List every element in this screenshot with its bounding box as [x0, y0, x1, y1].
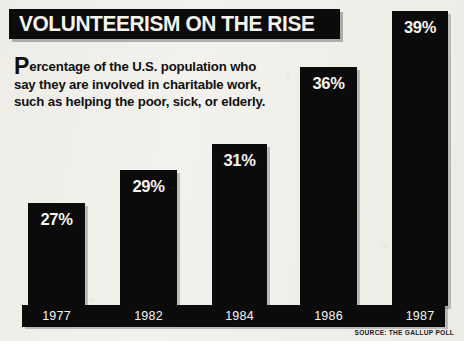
bar: 27%: [28, 203, 85, 306]
bar: 31%: [212, 144, 267, 306]
bar: 36%: [300, 67, 357, 306]
axis-baseline-strip: 19771982198419861987: [22, 305, 445, 327]
bar-value-label: 39%: [392, 18, 448, 37]
bar: 29%: [120, 170, 177, 306]
x-axis-year-label: 1977: [28, 309, 85, 323]
x-axis-year-label: 1984: [212, 309, 267, 323]
bar: 39%: [392, 11, 448, 306]
bar-value-label: 31%: [212, 151, 267, 170]
bar-plot-area: 27%29%31%36%39%: [0, 0, 464, 341]
bar-value-label: 29%: [120, 177, 177, 196]
chart-figure: VOLUNTEERISM ON THE RISE Percentage of t…: [0, 0, 464, 341]
x-axis-year-label: 1986: [300, 309, 357, 323]
bar-value-label: 36%: [300, 74, 357, 93]
source-note: SOURCE: THE GALLUP POLL: [355, 329, 454, 336]
x-axis-year-label: 1982: [120, 309, 177, 323]
x-axis-year-label: 1987: [392, 309, 448, 323]
bar-value-label: 27%: [28, 210, 85, 229]
